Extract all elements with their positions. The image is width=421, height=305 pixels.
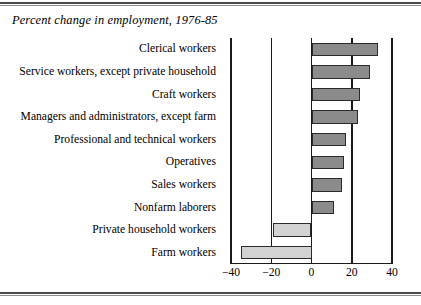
category-label: Farm workers <box>151 246 216 259</box>
category-label-group: Clerical workersService workers, except … <box>0 38 224 264</box>
category-label: Sales workers <box>151 178 216 191</box>
bar <box>312 88 360 102</box>
plot-area <box>231 38 392 264</box>
category-label: Craft workers <box>152 88 216 101</box>
category-label: Nonfarm laborers <box>134 201 216 214</box>
category-label: Private household workers <box>92 223 216 236</box>
bar <box>241 246 311 260</box>
x-tick-label: 0 <box>309 266 315 279</box>
bar <box>312 178 342 192</box>
top-rule-thin <box>0 5 421 6</box>
top-rule-thick <box>0 2 421 4</box>
bar-group <box>231 38 392 264</box>
x-tick-label: −20 <box>262 266 280 279</box>
bar <box>312 110 358 124</box>
bar <box>312 65 370 79</box>
category-label: Professional and technical workers <box>54 133 216 146</box>
chart-title: Percent change in employment, 1976-85 <box>12 13 218 28</box>
category-label: Managers and administrators, except farm <box>21 110 216 123</box>
bar <box>273 223 311 237</box>
bottom-rule-thick <box>0 292 421 294</box>
category-label: Clerical workers <box>139 42 216 55</box>
x-axis-tick-labels: −40−2002040 <box>231 266 392 284</box>
bar <box>312 133 346 147</box>
category-label: Operatives <box>166 155 216 168</box>
x-tick-label: −40 <box>222 266 240 279</box>
bar <box>312 201 334 215</box>
bar <box>312 43 378 57</box>
bottom-rule-thin <box>0 295 421 296</box>
bar <box>312 156 344 170</box>
figure: Percent change in employment, 1976-85 Cl… <box>0 0 421 305</box>
x-tick-label: 20 <box>346 266 358 279</box>
category-label: Service workers, except private househol… <box>19 65 216 78</box>
x-tick-label: 40 <box>386 266 398 279</box>
